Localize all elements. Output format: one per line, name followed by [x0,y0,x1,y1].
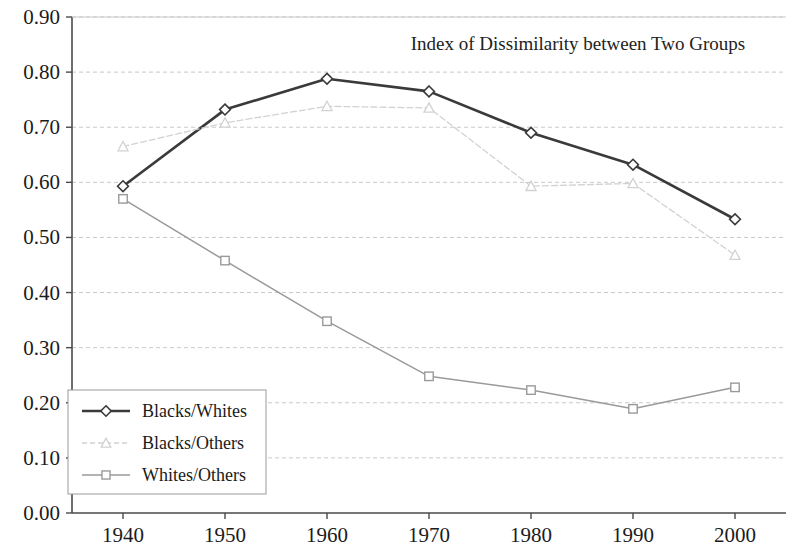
legend-item-label: Whites/Others [142,465,246,485]
x-tick-label: 2000 [714,523,756,547]
chart-canvas: 0.000.100.200.300.400.500.600.700.800.90… [0,0,802,552]
y-tick-label: 0.50 [23,225,60,249]
chart-title: Index of Dissimilarity between Two Group… [411,33,745,54]
x-tick-label: 1960 [306,523,348,547]
chart-legend: Blacks/WhitesBlacks/OthersWhites/Others [68,390,266,494]
x-tick-label: 1970 [408,523,450,547]
data-point-marker [323,317,331,325]
data-point-marker [425,372,433,380]
x-tick-label: 1990 [612,523,654,547]
y-tick-label: 0.10 [23,446,60,470]
y-tick-label: 0.00 [23,501,60,525]
legend-item-label: Blacks/Others [142,433,244,453]
y-tick-label: 0.30 [23,336,60,360]
data-point-marker [629,405,637,413]
y-tick-label: 0.20 [23,391,60,415]
x-tick-label: 1980 [510,523,552,547]
y-tick-label: 0.70 [23,115,60,139]
y-tick-label: 0.80 [23,60,60,84]
legend-item-label: Blacks/Whites [142,401,247,421]
x-tick-label: 1950 [204,523,246,547]
y-tick-label: 0.60 [23,170,60,194]
legend-marker-sample [102,471,110,479]
y-tick-label: 0.90 [23,5,60,29]
data-point-marker [527,386,535,394]
y-tick-label: 0.40 [23,281,60,305]
chart-figure: 0.000.100.200.300.400.500.600.700.800.90… [0,0,802,552]
data-point-marker [731,383,739,391]
x-tick-label: 1940 [102,523,144,547]
data-point-marker [119,195,127,203]
data-point-marker [221,256,229,264]
